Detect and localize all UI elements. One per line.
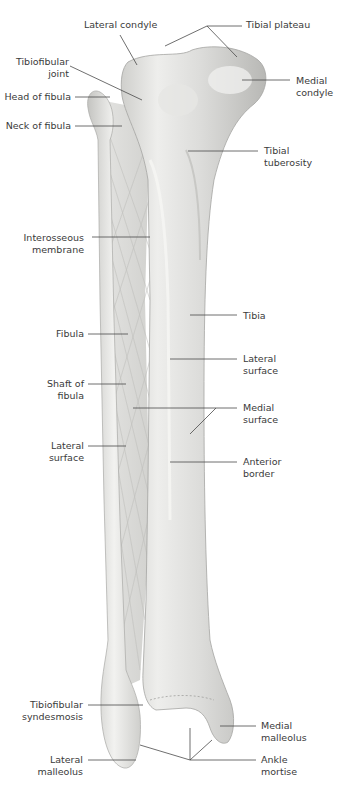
label-fibula-lateral-surface-line2: surface [0, 452, 84, 464]
label-tibial-tuberosity-line1: Tibial [264, 145, 312, 157]
label-interosseous-membrane-line1: Interosseous [0, 232, 84, 244]
label-shaft-of-fibula-line2: fibula [0, 390, 84, 402]
anatomy-figure: Lateral condyle Tibial plateau Tibiofibu… [0, 0, 342, 798]
label-fibula-lateral-surface: Lateral surface [0, 440, 84, 463]
label-ankle-mortise-line2: mortise [261, 766, 297, 778]
label-medial-malleolus-line2: malleolus [261, 732, 307, 744]
label-medial-surface-line1: Medial [243, 402, 278, 414]
label-tibia: Tibia [243, 310, 266, 322]
label-fibula-lateral-surface-line1: Lateral [0, 440, 84, 452]
label-shaft-of-fibula: Shaft of fibula [0, 378, 84, 401]
label-lateral-malleolus: Lateral malleolus [0, 754, 83, 777]
label-medial-malleolus-line1: Medial [261, 720, 307, 732]
label-ankle-mortise-line1: Ankle [261, 754, 297, 766]
label-lateral-malleolus-line1: Lateral [0, 754, 83, 766]
label-lateral-condyle: Lateral condyle [84, 19, 157, 31]
label-tibiofibular-syndesmosis-line1: Tibiofibular [0, 699, 83, 711]
label-tibia-lateral-surface-line2: surface [243, 365, 278, 377]
label-tibiofibular-syndesmosis-line2: syndesmosis [0, 711, 83, 723]
label-shaft-of-fibula-line1: Shaft of [0, 378, 84, 390]
label-anterior-border-line1: Anterior [243, 456, 281, 468]
label-ankle-mortise: Ankle mortise [261, 754, 297, 777]
label-neck-of-fibula: Neck of fibula [0, 120, 71, 132]
label-tibia-lateral-surface: Lateral surface [243, 353, 278, 376]
label-head-of-fibula: Head of fibula [0, 91, 71, 103]
label-medial-condyle-line1: Medial [296, 75, 333, 87]
label-medial-condyle-line2: condyle [296, 87, 333, 99]
label-tibial-tuberosity: Tibial tuberosity [264, 145, 312, 168]
label-medial-surface: Medial surface [243, 402, 278, 425]
label-interosseous-membrane-line2: membrane [0, 244, 84, 256]
label-tibiofibular-joint-line1: Tibiofibular [0, 56, 69, 68]
label-tibiofibular-joint-line2: joint [0, 68, 69, 80]
label-medial-malleolus: Medial malleolus [261, 720, 307, 743]
label-anterior-border: Anterior border [243, 456, 281, 479]
label-anterior-border-line2: border [243, 468, 281, 480]
label-tibia-lateral-surface-line1: Lateral [243, 353, 278, 365]
label-tibiofibular-syndesmosis: Tibiofibular syndesmosis [0, 699, 83, 722]
label-fibula: Fibula [0, 328, 84, 340]
label-tibial-tuberosity-line2: tuberosity [264, 157, 312, 169]
label-tibiofibular-joint: Tibiofibular joint [0, 56, 69, 79]
label-interosseous-membrane: Interosseous membrane [0, 232, 84, 255]
label-medial-surface-line2: surface [243, 414, 278, 426]
label-tibial-plateau: Tibial plateau [246, 19, 310, 31]
label-medial-condyle: Medial condyle [296, 75, 333, 98]
label-lateral-malleolus-line2: malleolus [0, 766, 83, 778]
